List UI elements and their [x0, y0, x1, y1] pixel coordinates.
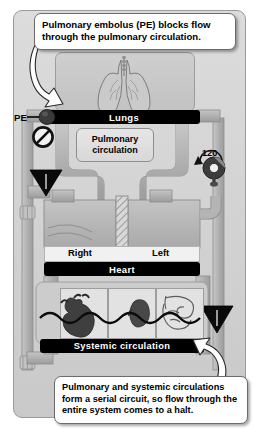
pulmonary-line-2: circulation	[92, 145, 138, 156]
pulmonary-line-1: Pulmonary	[92, 134, 139, 145]
pressure-value-label: 120	[202, 148, 217, 158]
right-ventricle-label: Right	[68, 247, 92, 258]
callout-bottom: Pulmonary and systemic circulations form…	[54, 376, 248, 424]
pulmonary-circulation-label: Pulmonary circulation	[76, 128, 154, 162]
organ-cell-intestines	[156, 288, 204, 339]
organ-cell-kidney	[108, 288, 156, 339]
diagram-canvas: Lungs PE Pulmonary circulation 120 Right…	[0, 0, 257, 434]
heart-label-bar: Heart	[44, 262, 200, 276]
left-ventricle-label: Left	[152, 247, 169, 258]
organ-cell-heart	[60, 288, 108, 339]
systemic-circulation-bar: Systemic circulation	[40, 339, 204, 353]
lungs-label-bar: Lungs	[48, 110, 200, 124]
lungs-panel	[55, 52, 195, 112]
callout-top: Pulmonary embolus (PE) blocks flow throu…	[34, 13, 236, 50]
pe-label: PE	[14, 112, 27, 123]
